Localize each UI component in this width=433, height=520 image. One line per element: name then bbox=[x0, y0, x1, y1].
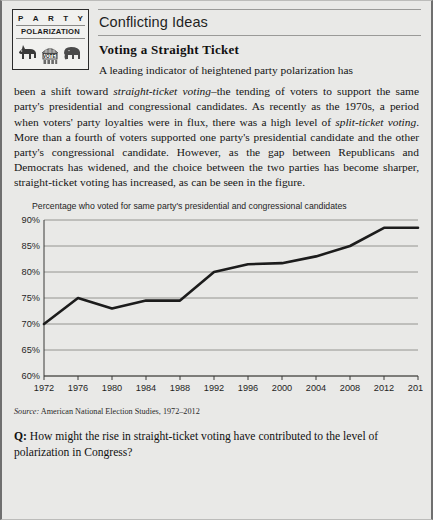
booth-vote-label: VOTE! bbox=[43, 54, 58, 59]
chart-title: Percentage who voted for same party's pr… bbox=[14, 201, 419, 214]
logo-letter-p: P bbox=[18, 14, 23, 23]
logo-letter-a: A bbox=[33, 14, 39, 23]
y-axis-tick-label: 75% bbox=[22, 293, 40, 303]
source-label: Source: bbox=[14, 407, 39, 416]
x-axis-tick-label: 1992 bbox=[204, 383, 224, 393]
y-axis-tick-label: 80% bbox=[22, 267, 40, 277]
body-paragraph: been a shift toward straight-ticket voti… bbox=[2, 78, 431, 190]
x-axis-tick-label: 1980 bbox=[102, 383, 122, 393]
term-straight-ticket-voting: straight-ticket voting bbox=[113, 85, 211, 97]
question-marker: Q: bbox=[14, 430, 27, 443]
x-axis-tick-label: 1984 bbox=[136, 383, 156, 393]
x-axis-tick-label: 1988 bbox=[170, 383, 190, 393]
x-axis-tick-label: 2016 bbox=[408, 383, 423, 393]
x-axis-tick-label: 2004 bbox=[306, 383, 326, 393]
logo-artwork: VOTE! bbox=[16, 41, 85, 67]
x-axis-tick-label: 2012 bbox=[374, 383, 394, 393]
y-axis-tick-label: 60% bbox=[22, 371, 40, 381]
data-series-line bbox=[44, 227, 418, 323]
body-first-line: A leading indicator of heightened party … bbox=[98, 58, 421, 78]
donkey-icon bbox=[19, 45, 36, 59]
term-split-ticket-voting: split-ticket voting bbox=[335, 116, 416, 128]
x-axis-tick-label: 1996 bbox=[238, 383, 258, 393]
voting-booth-icon: VOTE! bbox=[42, 46, 58, 64]
x-axis-tick-label: 2000 bbox=[272, 383, 292, 393]
logo-divider-bottom bbox=[16, 38, 85, 39]
chart-svg: 90%85%80%75%70%65%60%1972197619801984198… bbox=[14, 214, 423, 400]
discussion-question: Q: How might the rise in straight-ticket… bbox=[2, 416, 431, 461]
logo-divider-top bbox=[16, 25, 85, 26]
x-axis-tick-label: 2008 bbox=[340, 383, 360, 393]
party-polarization-logo: P A R T Y POLARIZATION bbox=[12, 9, 89, 70]
logo-artwork-svg: VOTE! bbox=[16, 41, 85, 67]
logo-letter-y: Y bbox=[78, 14, 83, 23]
logo-letter-r: R bbox=[48, 14, 54, 23]
textbook-feature-box: P A R T Y POLARIZATION bbox=[0, 0, 433, 520]
feature-title: Conflicting Ideas bbox=[98, 10, 421, 35]
section-title: Voting a Straight Ticket bbox=[98, 36, 421, 58]
body-text-a: been a shift toward bbox=[14, 85, 113, 97]
logo-letter-t: T bbox=[63, 14, 68, 23]
figure: Percentage who voted for same party's pr… bbox=[2, 201, 431, 400]
y-axis-tick-label: 65% bbox=[22, 345, 40, 355]
feature-header: P A R T Y POLARIZATION bbox=[2, 1, 431, 78]
line-chart: 90%85%80%75%70%65%60%1972197619801984198… bbox=[14, 214, 423, 400]
header-titles: Conflicting Ideas Voting a Straight Tick… bbox=[98, 9, 421, 78]
y-axis-tick-label: 85% bbox=[22, 241, 40, 251]
figure-source: Source: American National Election Studi… bbox=[2, 400, 431, 416]
y-axis-tick-label: 70% bbox=[22, 319, 40, 329]
elephant-icon bbox=[64, 47, 80, 60]
logo-subtitle: POLARIZATION bbox=[16, 27, 85, 37]
question-text: How might the rise in straight-ticket vo… bbox=[14, 430, 378, 459]
x-axis-tick-label: 1972 bbox=[34, 383, 54, 393]
logo-party-word: P A R T Y bbox=[16, 14, 85, 24]
source-text: American National Election Studies, 1972… bbox=[41, 407, 200, 416]
x-axis-tick-label: 1976 bbox=[68, 383, 88, 393]
y-axis-tick-label: 90% bbox=[22, 215, 40, 225]
